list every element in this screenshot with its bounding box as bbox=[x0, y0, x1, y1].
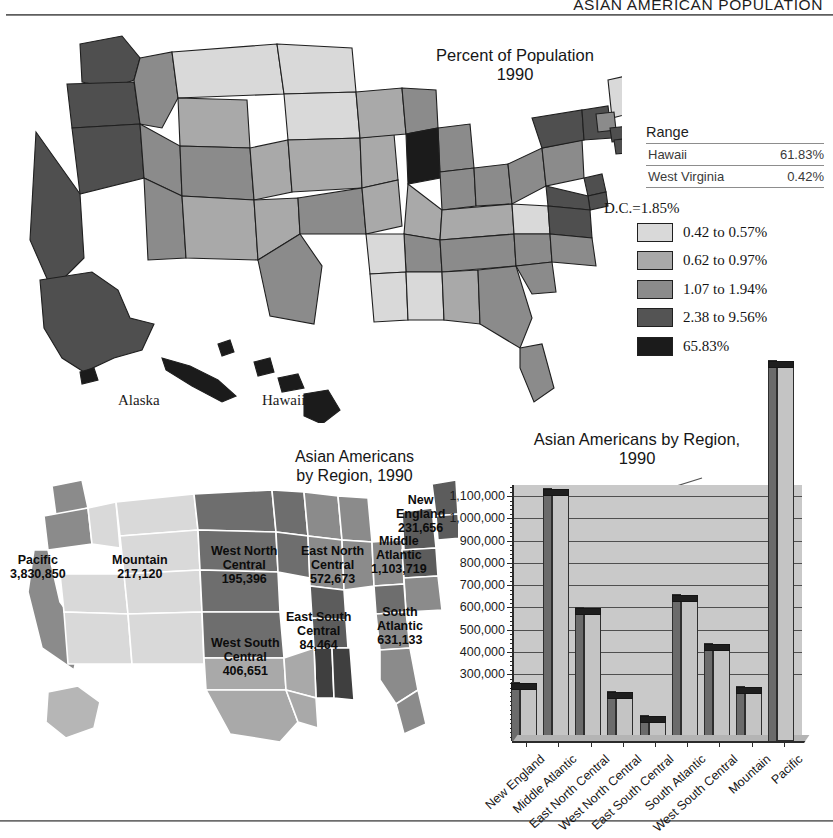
region-shape-wnc-mn bbox=[272, 490, 308, 536]
state-mi bbox=[438, 124, 474, 172]
region-label-pacific-name: Pacific bbox=[10, 553, 66, 567]
x-axis-tick bbox=[591, 741, 592, 747]
y-axis-tick-label: 1,000,000 bbox=[449, 511, 505, 525]
state-il bbox=[406, 128, 440, 184]
y-axis-minor-tick bbox=[510, 621, 514, 622]
bar-side bbox=[704, 643, 713, 741]
state-ar bbox=[366, 234, 406, 274]
y-axis-tick bbox=[507, 541, 514, 542]
region-label-wsc-value: 406,651 bbox=[211, 664, 280, 678]
x-axis-tick bbox=[687, 741, 688, 747]
state-va bbox=[548, 206, 592, 238]
x-axis-tick bbox=[719, 741, 720, 747]
region-shape-mountain-az bbox=[64, 612, 132, 664]
y-axis-minor-tick bbox=[510, 665, 514, 666]
x-axis-label: Pacific bbox=[769, 752, 806, 787]
state-sd bbox=[284, 92, 360, 140]
range-table-header: Range bbox=[646, 124, 824, 144]
region-shape-mountain-id bbox=[88, 502, 120, 548]
region-map-title-line1: Asian Americans bbox=[262, 448, 447, 467]
y-axis-minor-tick bbox=[510, 581, 514, 582]
bar-face bbox=[584, 614, 601, 741]
bar-side bbox=[736, 686, 745, 741]
region-label-mountain-name: Mountain bbox=[112, 553, 168, 567]
range-row-high: Hawaii 61.83% bbox=[646, 144, 824, 166]
bar bbox=[584, 614, 601, 741]
y-axis-minor-tick bbox=[510, 590, 514, 591]
bar-face bbox=[520, 689, 537, 741]
y-axis-minor-tick bbox=[510, 492, 514, 493]
bar bbox=[681, 601, 698, 741]
y-axis-minor-tick bbox=[510, 599, 514, 600]
state-tn-w bbox=[404, 234, 442, 272]
y-axis-minor-tick bbox=[510, 634, 514, 635]
legend-label-3: 1.07 to 1.94% bbox=[683, 281, 767, 298]
region-label-wnc-name-2: Central bbox=[211, 558, 277, 572]
region-map-title: Asian Americans by Region, 1990 bbox=[262, 448, 447, 486]
main-map-title-line1: Percent of Population bbox=[400, 46, 630, 65]
region-label-enc-value: 572,673 bbox=[301, 572, 364, 586]
y-axis-minor-tick bbox=[510, 527, 514, 528]
y-axis-tick-label: 1,100,000 bbox=[449, 489, 505, 503]
range-row-low-name: West Virginia bbox=[648, 169, 724, 184]
y-axis-minor-tick bbox=[510, 643, 514, 644]
region-label-west-north-central: West North Central 195,396 bbox=[211, 544, 277, 586]
state-id bbox=[134, 52, 178, 128]
y-axis-tick-label: 400,000 bbox=[460, 645, 505, 659]
x-axis-tick bbox=[752, 741, 753, 747]
state-tn bbox=[440, 234, 516, 272]
legend-item-4: 2.38 to 9.56% bbox=[637, 307, 767, 329]
region-label-south-atlantic: South Atlantic 631,133 bbox=[377, 605, 423, 647]
bar bbox=[520, 689, 537, 741]
y-axis-tick-label: 300,000 bbox=[460, 667, 505, 681]
y-axis-tick bbox=[507, 496, 514, 497]
bar-face bbox=[552, 495, 569, 741]
region-shape-enc-mi bbox=[338, 496, 372, 542]
bar-face bbox=[713, 650, 730, 741]
state-or bbox=[67, 82, 140, 128]
bar-chart-title-line1: Asian Americans by Region, bbox=[492, 430, 782, 449]
legend-swatch-4 bbox=[637, 308, 673, 327]
bar-top bbox=[640, 716, 666, 723]
bar bbox=[552, 495, 569, 741]
bar-face bbox=[745, 693, 762, 741]
region-shape-pacific-or bbox=[44, 508, 92, 550]
x-axis-tick bbox=[784, 741, 785, 747]
region-label-wsc-name-2: Central bbox=[211, 650, 280, 664]
y-axis-tick bbox=[507, 652, 514, 653]
map-label-alaska: Alaska bbox=[118, 392, 160, 409]
region-label-matlantic-name-1: Middle bbox=[371, 534, 427, 548]
x-axis-tick bbox=[558, 741, 559, 747]
y-axis-minor-tick bbox=[510, 487, 514, 488]
bar-side bbox=[768, 360, 777, 741]
range-row-low: West Virginia 0.42% bbox=[646, 166, 824, 188]
y-axis-tick bbox=[507, 630, 514, 631]
main-map-title: Percent of Population 1990 bbox=[400, 46, 630, 84]
state-pa-w bbox=[508, 148, 546, 204]
region-label-esc-name-1: East South bbox=[286, 610, 351, 624]
state-ok bbox=[298, 188, 366, 234]
y-axis-tick-label: 500,000 bbox=[460, 623, 505, 637]
y-axis-minor-tick bbox=[510, 670, 514, 671]
bar-top bbox=[672, 595, 698, 602]
y-axis-tick bbox=[507, 607, 514, 608]
bar-top bbox=[736, 687, 762, 694]
state-nv bbox=[72, 124, 144, 194]
inset-hi-oahu bbox=[254, 358, 274, 376]
region-shape-mountain-mt bbox=[116, 494, 198, 536]
dc-note: D.C.=1.85% bbox=[604, 200, 680, 217]
x-axis-tick bbox=[526, 741, 527, 747]
region-label-satlantic-name-2: Atlantic bbox=[377, 619, 423, 633]
y-axis-minor-tick bbox=[510, 656, 514, 657]
bar-chart-asian-americans-by-region: Asian Americans by Region, 1990 3,830,85… bbox=[430, 430, 833, 830]
bar-side bbox=[672, 594, 681, 741]
state-nd bbox=[277, 44, 356, 94]
bar-side bbox=[511, 682, 520, 741]
y-axis-tick-label: 600,000 bbox=[460, 600, 505, 614]
y-axis-tick bbox=[507, 674, 514, 675]
legend-swatch-2 bbox=[637, 251, 673, 270]
y-axis-minor-tick bbox=[510, 679, 514, 680]
state-wa bbox=[80, 36, 140, 88]
bar bbox=[745, 693, 762, 741]
bar-face bbox=[777, 367, 794, 741]
